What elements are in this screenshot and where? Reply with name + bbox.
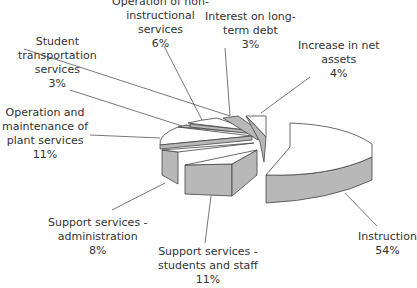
label-interest: Interest on long- term debt 3% (205, 10, 296, 52)
label-non-instructional: Operation of non- instructional services… (112, 0, 209, 51)
label-net-assets: Increase in net assets 4% (298, 39, 380, 81)
label-support-students: Support services - students and staff 11… (158, 245, 258, 287)
label-support-admin: Support services - administration 8% (48, 216, 148, 258)
label-instruction: Instruction 54% (358, 230, 417, 258)
slice-instruction (266, 123, 372, 203)
slice-support-students (185, 150, 257, 196)
label-transport: Student transportation services 3% (18, 35, 97, 91)
label-plant: Operation and maintenance of plant servi… (2, 106, 88, 162)
